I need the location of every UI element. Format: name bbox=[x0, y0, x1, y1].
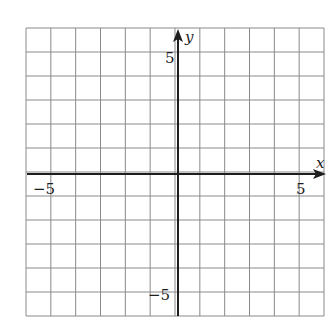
grid bbox=[26, 28, 324, 316]
coordinate-plane: x y −5 5 5 −5 bbox=[0, 0, 333, 331]
x-tick-label-neg5: −5 bbox=[33, 180, 55, 198]
x-axis-label: x bbox=[316, 154, 325, 172]
x-tick-label-5: 5 bbox=[296, 180, 306, 198]
y-tick-label-neg5: −5 bbox=[148, 286, 170, 304]
y-tick-label-5: 5 bbox=[165, 49, 175, 67]
y-axis-label: y bbox=[184, 28, 194, 46]
